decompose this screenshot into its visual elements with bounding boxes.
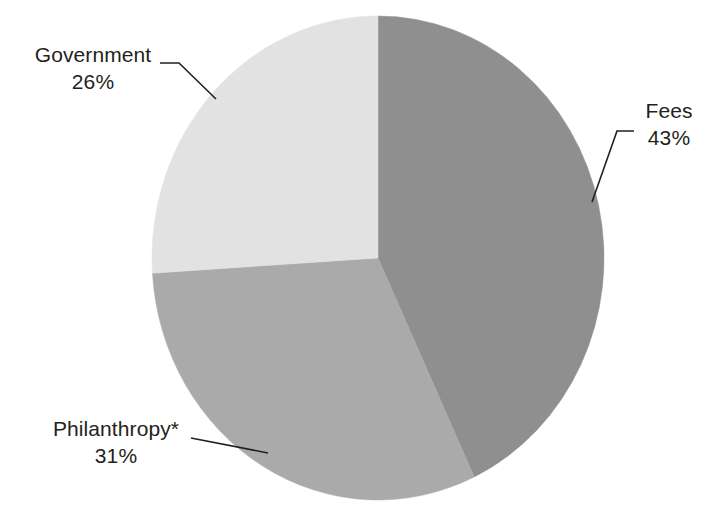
leader-line-fees xyxy=(592,131,634,202)
pie-label-philanthropy-value: 31% xyxy=(42,443,190,470)
pie-label-government: Government 26% xyxy=(22,42,164,96)
pie-slice-government[interactable] xyxy=(152,16,378,273)
leader-line-government xyxy=(160,63,216,99)
pie-label-fees-name: Fees xyxy=(637,98,701,125)
pie-label-government-value: 26% xyxy=(22,69,164,96)
pie-chart-figure: Government 26% Fees 43% Philanthropy* 31… xyxy=(0,0,712,505)
pie-label-government-name: Government xyxy=(22,42,164,69)
pie-label-fees: Fees 43% xyxy=(637,98,701,152)
pie-label-philanthropy-name: Philanthropy* xyxy=(42,416,190,443)
pie-label-philanthropy: Philanthropy* 31% xyxy=(42,416,190,470)
pie-label-fees-value: 43% xyxy=(637,125,701,152)
pie-slices xyxy=(152,16,604,500)
